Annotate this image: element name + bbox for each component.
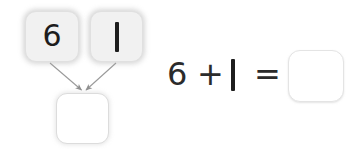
arrow-left-to-sum <box>50 63 82 90</box>
number-bond-addend-1-box[interactable]: 6 <box>25 11 79 62</box>
worksheet-canvas: 6 6 + = <box>0 0 361 149</box>
arrow-right-to-sum <box>86 63 116 90</box>
equation-addend-2 <box>231 58 235 91</box>
equation-answer-box[interactable] <box>288 50 344 102</box>
addition-equation: 6 + = <box>160 46 361 104</box>
equation-plus-operator: + <box>197 58 224 90</box>
number-bond-diagram: 6 <box>0 0 155 149</box>
number-bond-addend-2-box[interactable] <box>90 11 143 62</box>
equation-addend-2-glyph <box>231 59 235 91</box>
equation-addend-1: 6 <box>167 58 187 90</box>
number-bond-sum-box[interactable] <box>56 93 109 144</box>
equation-equals-sign: = <box>254 58 281 90</box>
number-bond-addend-2-value <box>115 22 119 52</box>
number-bond-addend-1-value: 6 <box>42 21 61 51</box>
